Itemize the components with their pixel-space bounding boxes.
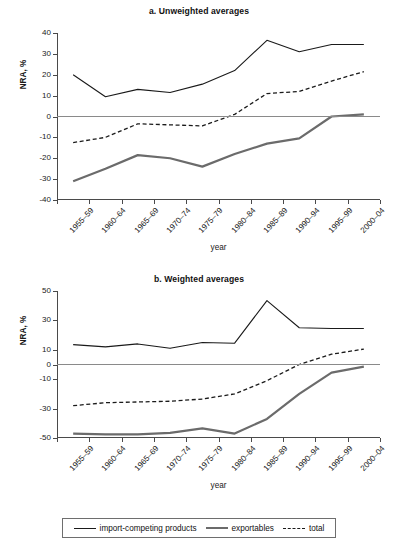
y-tick-label: 10 bbox=[42, 346, 51, 354]
x-tick-mark bbox=[251, 200, 252, 204]
panel-a-y-axis-label: NRA, % bbox=[19, 45, 28, 105]
series-line-exportables bbox=[73, 367, 364, 435]
x-tick-label: 1990–94 bbox=[294, 206, 322, 235]
y-tick-mark bbox=[53, 379, 57, 380]
x-tick-mark bbox=[186, 200, 187, 204]
x-tick-label: 1960–64 bbox=[100, 206, 128, 235]
panel-a-series-canvas bbox=[57, 33, 380, 200]
x-tick-label: 1970–74 bbox=[165, 444, 193, 473]
y-tick-mark bbox=[53, 291, 57, 292]
legend-item-total: total bbox=[283, 524, 324, 533]
x-tick-label: 1980–84 bbox=[229, 444, 257, 473]
x-tick-mark bbox=[122, 438, 123, 442]
x-tick-label: 1970–74 bbox=[165, 206, 193, 235]
y-tick-label: -10 bbox=[39, 375, 51, 383]
y-tick-label: -20 bbox=[39, 154, 51, 162]
y-tick-mark bbox=[53, 158, 57, 159]
y-tick-mark bbox=[53, 409, 57, 410]
x-tick-label: 1985–89 bbox=[262, 206, 290, 235]
y-tick-label: 50 bbox=[42, 287, 51, 295]
legend-item-import-competing: import-competing products bbox=[74, 524, 197, 533]
x-tick-label: 1955–59 bbox=[68, 444, 96, 473]
y-tick-mark bbox=[53, 54, 57, 55]
x-tick-label: 1995–99 bbox=[326, 444, 354, 473]
x-tick-mark bbox=[154, 438, 155, 442]
y-tick-mark bbox=[53, 365, 57, 366]
x-tick-mark bbox=[186, 438, 187, 442]
x-tick-mark bbox=[154, 200, 155, 204]
x-tick-mark bbox=[251, 438, 252, 442]
x-tick-label: 1975–79 bbox=[197, 444, 225, 473]
legend-label-exportables: exportables bbox=[232, 524, 274, 533]
panel-b-series-canvas bbox=[57, 291, 380, 438]
x-tick-mark bbox=[57, 200, 58, 204]
figure: a. Unweighted averages NRA, % 403020100-… bbox=[0, 0, 398, 545]
chart-legend: import-competing products exportables to… bbox=[62, 518, 336, 538]
legend-line-icon-exportables bbox=[206, 527, 228, 529]
y-tick-mark bbox=[53, 117, 57, 118]
x-tick-label: 1965–69 bbox=[133, 206, 161, 235]
y-tick-mark bbox=[53, 75, 57, 76]
y-tick-label: 40 bbox=[42, 29, 51, 37]
x-tick-mark bbox=[89, 438, 90, 442]
panel-b-x-axis-label: year bbox=[57, 481, 380, 490]
y-tick-mark bbox=[53, 179, 57, 180]
x-tick-mark bbox=[219, 200, 220, 204]
y-tick-mark bbox=[53, 33, 57, 34]
x-tick-label: 2000–04 bbox=[359, 444, 387, 473]
legend-line-icon-import-competing bbox=[74, 528, 96, 529]
y-tick-label: -50 bbox=[39, 434, 51, 442]
y-tick-label: 0 bbox=[47, 113, 51, 121]
panel-a-x-axis-label: year bbox=[57, 243, 380, 252]
y-tick-mark bbox=[53, 137, 57, 138]
chart-panel-unweighted: a. Unweighted averages NRA, % 403020100-… bbox=[0, 0, 398, 268]
y-tick-mark bbox=[53, 96, 57, 97]
series-line-import-competing-products bbox=[73, 40, 364, 96]
series-line-import-competing-products bbox=[73, 301, 364, 349]
x-tick-mark bbox=[283, 438, 284, 442]
legend-label-import-competing: import-competing products bbox=[100, 524, 197, 533]
y-tick-label: -10 bbox=[39, 133, 51, 141]
x-tick-label: 1995–99 bbox=[326, 206, 354, 235]
x-tick-mark bbox=[315, 200, 316, 204]
series-line-total bbox=[73, 349, 364, 406]
y-tick-label: 30 bbox=[42, 316, 51, 324]
chart-panel-weighted: b. Weighted averages NRA, % 5030100-10-3… bbox=[0, 268, 398, 480]
y-tick-mark bbox=[53, 320, 57, 321]
panel-b-plot-area: 5030100-10-30-501955–591960–641965–69197… bbox=[57, 291, 380, 438]
y-tick-mark bbox=[53, 350, 57, 351]
x-tick-label: 1975–79 bbox=[197, 206, 225, 235]
x-tick-mark bbox=[122, 200, 123, 204]
y-tick-label: -30 bbox=[39, 405, 51, 413]
zero-reference-line bbox=[57, 116, 380, 117]
x-tick-label: 1965–69 bbox=[133, 444, 161, 473]
y-tick-label: 10 bbox=[42, 92, 51, 100]
legend-line-icon-total bbox=[283, 528, 305, 529]
x-tick-mark bbox=[315, 438, 316, 442]
x-tick-mark bbox=[283, 200, 284, 204]
x-tick-label: 1985–89 bbox=[262, 444, 290, 473]
y-tick-label: -40 bbox=[39, 196, 51, 204]
x-tick-mark bbox=[89, 200, 90, 204]
series-line-exportables bbox=[73, 114, 364, 181]
panel-b-title: b. Weighted averages bbox=[0, 274, 398, 284]
y-tick-label: -30 bbox=[39, 175, 51, 183]
x-tick-label: 1960–64 bbox=[100, 444, 128, 473]
panel-a-title: a. Unweighted averages bbox=[0, 6, 398, 16]
x-tick-mark bbox=[380, 200, 381, 204]
legend-item-exportables: exportables bbox=[206, 524, 274, 533]
x-tick-mark bbox=[348, 438, 349, 442]
series-line-total bbox=[73, 72, 364, 143]
y-tick-label: 20 bbox=[42, 71, 51, 79]
x-tick-label: 1990–94 bbox=[294, 444, 322, 473]
y-tick-label: 30 bbox=[42, 50, 51, 58]
legend-label-total: total bbox=[309, 524, 324, 533]
panel-b-y-axis-label: NRA, % bbox=[19, 301, 28, 361]
x-tick-mark bbox=[219, 438, 220, 442]
y-tick-label: 0 bbox=[47, 361, 51, 369]
x-tick-mark bbox=[348, 200, 349, 204]
zero-reference-line bbox=[57, 364, 380, 365]
x-tick-mark bbox=[380, 438, 381, 442]
x-tick-label: 1980–84 bbox=[229, 206, 257, 235]
panel-a-plot-area: 403020100-10-20-30-401955–591960–641965–… bbox=[57, 33, 380, 200]
